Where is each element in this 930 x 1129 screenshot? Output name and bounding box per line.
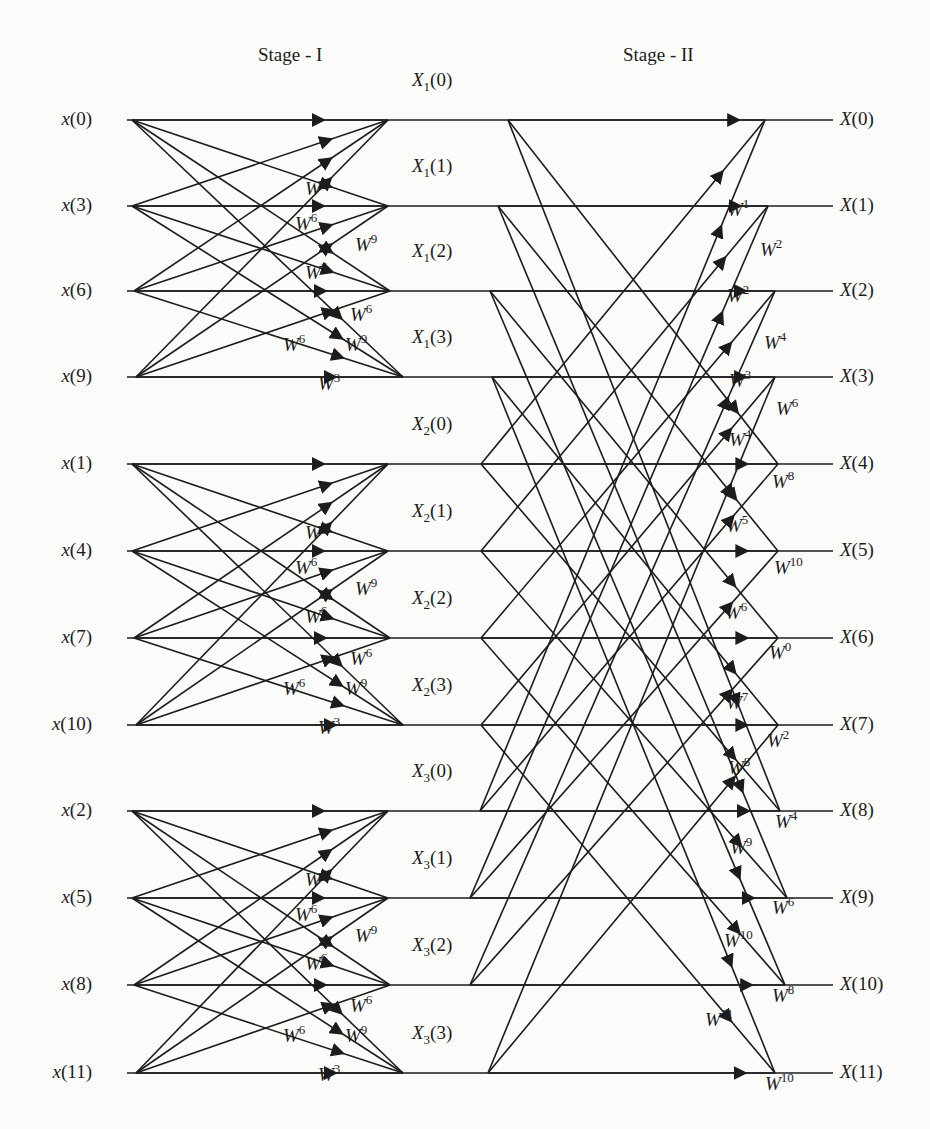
twiddle-exponent: 3: [321, 175, 328, 190]
twiddle-symbol: W: [772, 985, 788, 1006]
input-label-x2: x(2): [2, 800, 92, 819]
intermediate-symbol: X: [412, 760, 424, 781]
group-subscript: 3: [424, 944, 431, 959]
intermediate-index: (2): [430, 240, 452, 261]
intermediate-index: (1): [430, 847, 452, 868]
twiddle-symbol: W: [350, 648, 366, 669]
twiddle-symbol: W: [283, 1025, 299, 1046]
intermediate-label: X1(2): [412, 241, 452, 260]
twiddle-factor-label: W6: [350, 996, 372, 1015]
output-symbol: X: [840, 108, 852, 129]
twiddle-factor-label: W4: [729, 430, 751, 449]
twiddle-factor-label: W6: [350, 649, 372, 668]
twiddle-exponent: 3: [321, 519, 328, 534]
intermediate-label: X1(3): [412, 327, 452, 346]
twiddle-factor-label: W6: [295, 905, 317, 924]
input-symbol: x: [61, 452, 69, 473]
twiddle-symbol: W: [283, 678, 299, 699]
twiddle-exponent: 2: [743, 282, 750, 297]
twiddle-factor-label: W1: [727, 200, 749, 219]
twiddle-factor-label: W6: [776, 399, 798, 418]
output-index: (0): [852, 108, 874, 129]
output-symbol: X: [840, 539, 852, 560]
output-symbol: X: [840, 886, 852, 907]
twiddle-exponent: 6: [299, 675, 306, 690]
twiddle-exponent: 6: [321, 603, 328, 618]
twiddle-factor-label: W3: [729, 371, 751, 390]
output-index: (1): [852, 194, 874, 215]
twiddle-symbol: W: [729, 429, 745, 450]
twiddle-exponent: 6: [321, 950, 328, 965]
twiddle-exponent: 6: [321, 259, 328, 274]
twiddle-exponent: 9: [361, 331, 368, 346]
group-subscript: 3: [424, 1032, 431, 1047]
twiddle-symbol: W: [305, 606, 321, 627]
input-index: (10): [60, 713, 92, 734]
output-label-X5: X(5): [840, 540, 874, 559]
twiddle-symbol: W: [305, 178, 321, 199]
twiddle-symbol: W: [355, 234, 371, 255]
group-subscript: 1: [424, 336, 431, 351]
output-index: (5): [852, 539, 874, 560]
twiddle-symbol: W: [295, 904, 311, 925]
intermediate-index: (2): [430, 934, 452, 955]
twiddle-exponent: 6: [311, 554, 318, 569]
twiddle-symbol: W: [318, 373, 334, 394]
input-symbol: x: [61, 799, 69, 820]
twiddle-factor-label: W3: [305, 523, 327, 542]
twiddle-factor-label: W3: [305, 870, 327, 889]
twiddle-factor-label: W11: [705, 1010, 733, 1029]
stage2-edge: [498, 206, 787, 898]
twiddle-factor-label: W3: [318, 374, 340, 393]
twiddle-factor-label: W6: [283, 1026, 305, 1045]
twiddle-exponent: 6: [366, 992, 373, 1007]
twiddle-factor-label: W6: [305, 263, 327, 282]
twiddle-exponent: 8: [788, 982, 795, 997]
twiddle-exponent: 3: [334, 714, 341, 729]
twiddle-exponent: 9: [361, 675, 368, 690]
input-symbol: x: [61, 539, 69, 560]
output-index: (2): [852, 279, 874, 300]
twiddle-exponent: 3: [334, 1061, 341, 1076]
group-subscript: 2: [424, 510, 431, 525]
twiddle-factor-label: W6: [725, 603, 747, 622]
intermediate-index: (1): [430, 155, 452, 176]
twiddle-factor-label: W5: [726, 516, 748, 535]
intermediate-symbol: X: [412, 500, 424, 521]
input-index: (0): [70, 108, 92, 129]
twiddle-factor-label: W6: [295, 558, 317, 577]
twiddle-symbol: W: [350, 995, 366, 1016]
intermediate-label: X2(1): [412, 501, 452, 520]
output-index: (11): [852, 1061, 883, 1082]
twiddle-symbol: W: [305, 953, 321, 974]
input-label-x7: x(7): [2, 627, 92, 646]
stage1-title: Stage - I: [258, 44, 322, 66]
twiddle-exponent: 9: [361, 1022, 368, 1037]
twiddle-symbol: W: [725, 602, 741, 623]
intermediate-label: X2(0): [412, 414, 452, 433]
intermediate-label: X2(2): [412, 588, 452, 607]
twiddle-exponent: 11: [721, 1006, 734, 1021]
twiddle-exponent: 6: [311, 901, 318, 916]
twiddle-factor-label: W6: [283, 335, 305, 354]
twiddle-symbol: W: [727, 199, 743, 220]
twiddle-symbol: W: [775, 811, 791, 832]
input-label-x4: x(4): [2, 540, 92, 559]
twiddle-factor-label: W6: [305, 954, 327, 973]
output-index: (4): [852, 452, 874, 473]
input-symbol: x: [61, 108, 69, 129]
intermediate-index: (3): [430, 326, 452, 347]
twiddle-symbol: W: [730, 837, 746, 858]
intermediate-index: (0): [430, 413, 452, 434]
input-symbol: x: [61, 365, 69, 386]
twiddle-symbol: W: [726, 515, 742, 536]
twiddle-exponent: 3: [321, 866, 328, 881]
output-symbol: X: [840, 365, 852, 386]
output-label-X9: X(9): [840, 887, 874, 906]
twiddle-factor-label: W3: [318, 718, 340, 737]
twiddle-exponent: 6: [792, 395, 799, 410]
output-label-X6: X(6): [840, 627, 874, 646]
twiddle-exponent: 8: [744, 754, 751, 769]
twiddle-exponent: 1: [743, 196, 750, 211]
twiddle-factor-label: W2: [760, 240, 782, 259]
